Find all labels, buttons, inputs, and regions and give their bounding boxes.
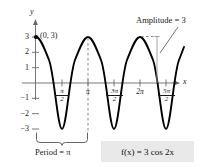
- equation-box: f(x) = 3 cos 2x: [101, 141, 194, 162]
- x-tick-label-pi: π: [81, 88, 95, 96]
- period-annotation: Period = π: [35, 148, 71, 157]
- x-tick-denominator: 2: [158, 96, 175, 103]
- x-tick-denominator: 2: [55, 96, 69, 103]
- point-label-0-3: (0, 3): [40, 32, 57, 40]
- point-marker-0-3: [34, 35, 38, 39]
- amplitude-annotation: Amplitude = 3: [136, 16, 186, 25]
- y-axis: [33, 19, 38, 100]
- y-tick-label-2: 2: [18, 48, 29, 56]
- x-tick-label-5pi-over-2: 5π 2: [158, 88, 175, 104]
- y-tick-label-3: 3: [18, 33, 29, 41]
- x-tick-denominator: 2: [106, 96, 123, 103]
- y-tick-label-1: 1: [18, 64, 29, 72]
- x-tick-label-2pi: 2π: [132, 88, 148, 96]
- y-tick-label-neg-2: −2: [12, 110, 29, 118]
- period-brace: [37, 133, 88, 146]
- x-axis: [22, 81, 180, 86]
- amplitude-leader-line: [160, 27, 178, 53]
- amplitude-bracket: [141, 37, 160, 84]
- x-tick-label-3pi-over-2: 3π 2: [106, 88, 123, 104]
- x-axis-label: x: [183, 78, 187, 86]
- x-tick-label-pi-over-2: π 2: [55, 88, 69, 104]
- y-tick-label-neg-1: −1: [12, 94, 29, 102]
- y-tick-label-neg-3: −3: [12, 125, 29, 133]
- equation-text: f(x) = 3 cos 2x: [121, 147, 174, 157]
- y-axis-label: y: [30, 8, 34, 16]
- trig-graph-figure: y x 3 2 1 −1 −2 −3 π 2 π 3π 2 2π 5π 2 (0…: [0, 0, 200, 167]
